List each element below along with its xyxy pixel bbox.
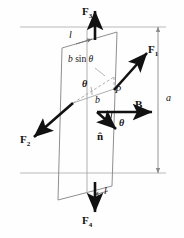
label-width-b: b	[95, 95, 100, 105]
label-normal-n-hat: n̂	[97, 131, 103, 142]
label-force-F2: F2	[20, 134, 30, 148]
label-projection-sin: sin	[75, 54, 86, 64]
label-projection-b: b	[68, 54, 73, 64]
label-force-F1: F1	[148, 44, 158, 58]
force-vector-F2	[34, 103, 73, 137]
normal-vector-n-hat	[97, 112, 116, 129]
label-dimension-a: a	[166, 93, 171, 103]
label-side-length-bottom: l	[104, 186, 107, 196]
label-force-F1-text: F	[148, 43, 155, 55]
label-side-length-top: l	[69, 30, 72, 40]
label-force-F3-subscript: 3	[89, 12, 93, 20]
label-force-F2-text: F	[20, 133, 27, 145]
label-field-B: B	[135, 99, 142, 110]
label-force-F4-text: F	[82, 214, 89, 226]
label-force-F3-text: F	[82, 5, 89, 17]
label-angle-theta-field: θ	[119, 118, 124, 128]
reference-lines	[20, 27, 166, 173]
geometry-guides	[73, 68, 114, 103]
label-projection-theta: θ	[89, 54, 94, 64]
label-projection-b-sin-theta: b sin θ	[68, 55, 93, 65]
label-force-F4-subscript: 4	[89, 221, 93, 229]
label-force-F4: F4	[82, 215, 92, 229]
label-force-F2-subscript: 2	[27, 140, 31, 148]
label-force-F1-subscript: 1	[155, 50, 159, 58]
label-force-F3: F3	[82, 6, 92, 20]
figure-canvas	[0, 0, 184, 238]
label-angle-theta-plane: θ	[82, 79, 87, 89]
label-point-p: P	[115, 85, 121, 95]
physics-figure-current-loop-in-magnetic-field: F3 F4 F1 F2 l l b sin θ θ b P B θ n̂ a	[0, 0, 184, 238]
